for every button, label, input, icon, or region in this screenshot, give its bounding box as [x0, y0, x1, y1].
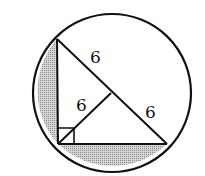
label-median: 6	[76, 95, 87, 115]
label-upper-hypotenuse: 6	[90, 47, 101, 67]
geometry-diagram: 6 6 6	[0, 0, 205, 176]
label-lower-hypotenuse: 6	[145, 102, 156, 122]
vertical-leg	[57, 39, 58, 144]
